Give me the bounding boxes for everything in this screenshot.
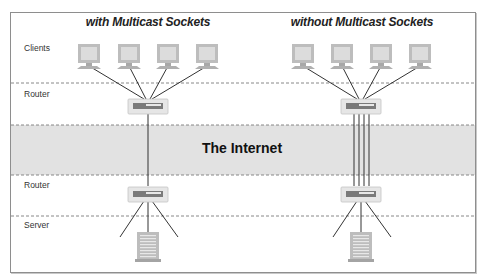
client-computer-icon — [369, 44, 393, 69]
diagram-graphics — [0, 0, 484, 280]
multicast-diagram: The Internet with Multicast Sockets with… — [0, 0, 484, 280]
router-icon — [128, 187, 168, 202]
client-computer-icon — [156, 44, 180, 69]
client-computer-icon — [117, 44, 141, 69]
panel-with-multicast — [77, 44, 219, 262]
row-separators — [11, 83, 474, 216]
router-icon — [341, 99, 381, 114]
client-computer-icon — [330, 44, 354, 69]
server-links — [333, 201, 391, 237]
client-links — [89, 66, 207, 99]
server-icon — [135, 232, 161, 262]
router-icon — [128, 99, 168, 114]
client-computer-icon — [195, 44, 219, 69]
server-links — [120, 201, 178, 237]
client-computer-icon — [291, 44, 315, 69]
panel-without-multicast — [291, 44, 432, 262]
client-computer-icon — [77, 44, 101, 69]
client-computer-icon — [408, 44, 432, 69]
client-links — [303, 66, 420, 99]
router-icon — [341, 187, 381, 202]
server-icon — [348, 232, 374, 262]
